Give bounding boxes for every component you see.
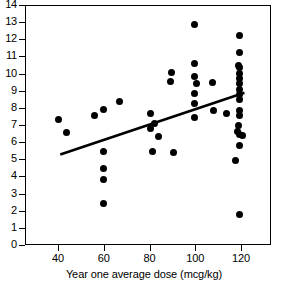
x-axis-title: Year one average dose (mcg/kg) (0, 268, 288, 280)
scatter-chart-figure: 01234567891011121314 406080100120 Year o… (0, 0, 288, 286)
regression-line-segment (60, 93, 244, 155)
trend-line (0, 0, 288, 286)
